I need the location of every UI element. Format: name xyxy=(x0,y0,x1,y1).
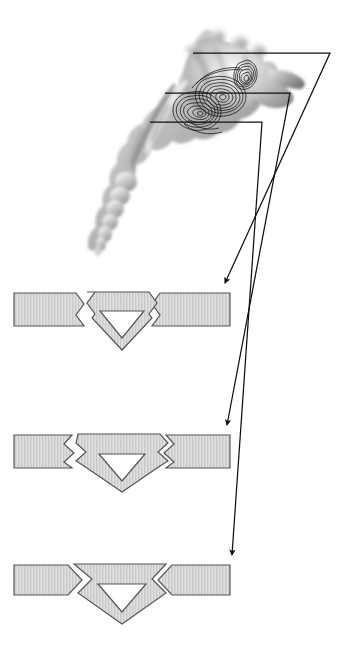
stage3-right-arm xyxy=(158,565,230,595)
stage1-right-arm xyxy=(152,293,230,326)
stage1-left-arm xyxy=(14,293,84,326)
figure-root: Nasal airway anatomy with cross-sectiona… xyxy=(0,0,347,646)
figure-canvas xyxy=(0,0,347,646)
stage2-left-arm xyxy=(14,435,74,468)
stage2-right-arm xyxy=(164,435,230,468)
stage3-left-arm xyxy=(14,565,82,595)
